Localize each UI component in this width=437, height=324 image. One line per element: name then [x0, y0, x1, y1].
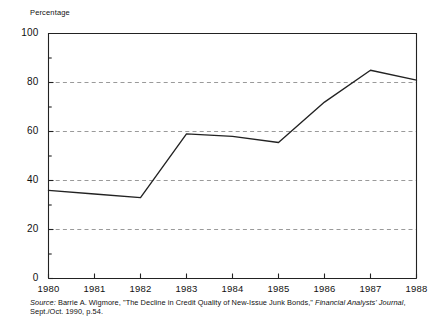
x-axis-tick-label: 1987 [351, 283, 391, 294]
line-chart-plot [0, 0, 437, 324]
x-axis-tick-label: 1981 [75, 283, 115, 294]
plot-frame [49, 34, 417, 279]
source-journal-name: Financial Analysts' Journal [315, 298, 403, 307]
data-series-line [49, 70, 417, 197]
y-axis-tick-label: 60 [11, 125, 39, 136]
x-axis-tick-label: 1986 [305, 283, 345, 294]
x-axis-tick-label: 1985 [259, 283, 299, 294]
y-axis-tick-label: 80 [11, 76, 39, 87]
source-citation: Source: Barrie A. Wigmore, "The Decline … [30, 298, 430, 317]
source-label: Source: [30, 298, 56, 307]
y-axis-tick-label: 100 [11, 27, 39, 38]
y-axis-tick-label: 20 [11, 223, 39, 234]
y-axis-tick-label: 40 [11, 174, 39, 185]
x-axis-tick-label: 1983 [167, 283, 207, 294]
y-axis-tick-label: 0 [11, 272, 39, 283]
x-axis-tick-label: 1984 [213, 283, 253, 294]
x-axis-tick-label: 1980 [29, 283, 69, 294]
x-axis-tick-label: 1988 [397, 283, 437, 294]
chart-figure: Percentage 02040608010019801981198219831… [0, 0, 437, 324]
x-axis-tick-label: 1982 [121, 283, 161, 294]
source-text-before: Barrie A. Wigmore, "The Decline in Credi… [58, 298, 313, 307]
